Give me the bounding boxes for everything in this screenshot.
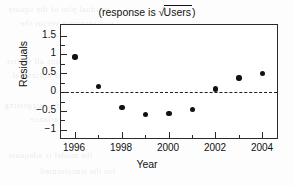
chart-title: (response is √Users): [0, 6, 294, 18]
x-tick-label: 2004: [239, 142, 285, 153]
x-tick-label: 2002: [192, 142, 238, 153]
data-point: [213, 86, 218, 91]
data-point: [190, 107, 195, 112]
y-tick-label: 0: [14, 86, 56, 96]
data-point: [119, 105, 124, 110]
y-tick-minor: [61, 64, 65, 65]
data-point: [72, 54, 77, 59]
data-point: [260, 71, 265, 76]
x-tick-major: [215, 132, 216, 138]
x-tick-minor: [98, 135, 99, 139]
x-tick-major: [122, 132, 123, 138]
y-tick-minor: [61, 120, 65, 121]
x-axis-title: Year: [0, 158, 294, 170]
y-tick-label: 1.5: [14, 30, 56, 40]
y-tick-major: [61, 130, 67, 131]
x-tick-minor: [192, 135, 193, 139]
chart-title-radicand: Users: [164, 5, 192, 18]
x-tick-major: [262, 132, 263, 138]
y-tick-label: 1: [14, 48, 56, 58]
data-point: [236, 75, 241, 80]
y-tick-label: 0.5: [14, 67, 56, 77]
chart-title-prefix: (response is: [98, 6, 158, 18]
x-tick-minor: [239, 135, 240, 139]
data-point: [96, 84, 101, 89]
y-tick-label: −0.5: [14, 105, 56, 115]
y-tick-major: [61, 111, 67, 112]
chart-title-suffix: ): [192, 6, 196, 18]
y-tick-major: [61, 36, 67, 37]
x-tick-major: [75, 132, 76, 138]
plot-area: [60, 24, 278, 139]
zero-reference-line: [61, 92, 277, 93]
y-tick-major: [61, 73, 67, 74]
x-tick-label: 1996: [51, 142, 97, 153]
y-tick-minor: [61, 83, 65, 84]
data-point: [143, 112, 148, 117]
x-tick-minor: [145, 135, 146, 139]
y-tick-label: −1: [14, 124, 56, 134]
chart-screenshot: residual plot of the square root respons…: [0, 0, 294, 186]
x-tick-major: [169, 132, 170, 138]
y-tick-minor: [61, 102, 65, 103]
data-point: [166, 111, 171, 116]
x-tick-label: 1998: [98, 142, 144, 153]
x-tick-label: 2000: [145, 142, 191, 153]
y-tick-minor: [61, 45, 65, 46]
y-tick-major: [61, 54, 67, 55]
